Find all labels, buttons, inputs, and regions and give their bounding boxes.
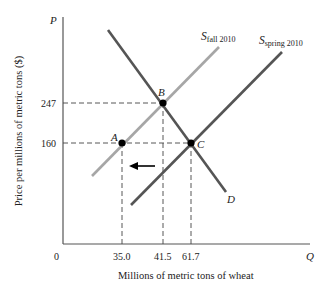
label-b: B	[158, 86, 165, 98]
origin-label: 0	[54, 251, 59, 262]
y-tick-160: 160	[41, 138, 56, 149]
label-a: A	[110, 131, 118, 143]
point-c	[187, 139, 194, 146]
label-s-fall: Sfall 2010	[201, 30, 235, 44]
supply-spring-2010-curve	[131, 52, 282, 205]
supply-demand-chart: A B C D Sfall 2010 Sspring 2010 P Q 0 24…	[0, 0, 331, 290]
q-axis-symbol: Q	[306, 250, 314, 262]
y-axis-title: Price per millions of metric tons ($)	[13, 55, 25, 206]
label-s-spring: Sspring 2010	[259, 34, 303, 48]
y-tick-247: 247	[41, 98, 56, 109]
x-axis-title: Millions of metric tons of wheat	[118, 270, 254, 281]
point-b	[159, 99, 166, 106]
left-arrow-icon	[129, 162, 155, 170]
point-a	[118, 139, 125, 146]
label-d: D	[226, 193, 235, 205]
x-tick-61-7: 61.7	[182, 251, 200, 262]
x-tick-41-5: 41.5	[154, 251, 172, 262]
label-c: C	[197, 138, 205, 150]
x-tick-35: 35.0	[113, 251, 131, 262]
p-axis-symbol: P	[49, 14, 57, 26]
guide-lines	[63, 103, 191, 244]
